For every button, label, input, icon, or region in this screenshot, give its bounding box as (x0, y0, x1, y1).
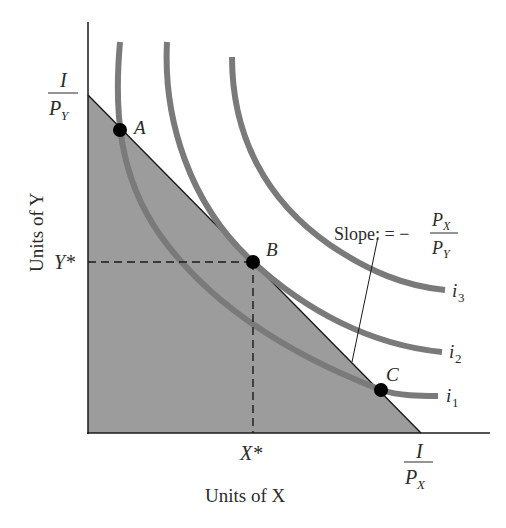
svg-text:X: X (442, 219, 451, 233)
svg-text:I: I (59, 69, 68, 91)
x-star-label: X* (239, 442, 262, 464)
svg-text:P: P (431, 238, 443, 258)
y-intercept-label: I P Y (48, 69, 78, 123)
curve-label-i1: i 1 (446, 385, 459, 410)
svg-text:2: 2 (455, 351, 462, 366)
svg-text:I: I (415, 440, 424, 462)
svg-text:i: i (446, 385, 451, 406)
svg-text:P: P (48, 97, 61, 119)
x-axis-title: Units of X (205, 485, 286, 506)
y-star-label: Y* (54, 251, 75, 273)
point-a (113, 123, 127, 137)
svg-text:3: 3 (458, 290, 465, 305)
svg-text:Y: Y (61, 108, 70, 123)
point-b (246, 255, 260, 269)
point-c-label: C (386, 364, 399, 385)
curve-label-i2: i 2 (449, 341, 462, 366)
svg-text:i: i (452, 280, 457, 301)
svg-text:Slope: = −: Slope: = − (334, 224, 409, 244)
point-c (374, 383, 388, 397)
y-axis-title: Units of Y (26, 192, 47, 272)
svg-text:X: X (416, 477, 426, 492)
x-intercept-label: I P X (404, 440, 433, 492)
point-a-label: A (132, 117, 146, 138)
curve-label-i3: i 3 (452, 280, 465, 305)
svg-text:Y: Y (443, 247, 451, 261)
svg-text:i: i (449, 341, 454, 362)
slope-pointer-line (352, 237, 378, 362)
svg-text:P: P (431, 210, 443, 230)
point-b-label: B (266, 239, 278, 260)
svg-text:P: P (404, 466, 417, 488)
slope-annotation: Slope: = − P X P Y (334, 210, 458, 261)
svg-text:1: 1 (452, 395, 459, 410)
consumer-equilibrium-diagram: A B C i 3 i 2 i 1 Slope: = − P X P Y I P… (0, 0, 506, 528)
indifference-curve-i3 (232, 57, 445, 290)
